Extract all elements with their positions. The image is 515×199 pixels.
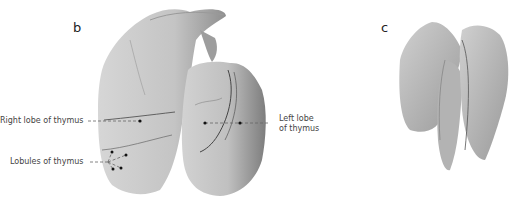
panel-c-lobes (399, 22, 508, 170)
label-left-lobe-line2: of thymus (279, 124, 319, 134)
label-left-lobe-line1: Left lobe (279, 114, 314, 124)
anatomy-illustration (0, 0, 515, 199)
label-lobules: Lobules of thymus (10, 157, 83, 167)
label-right-lobe: Right lobe of thymus (0, 116, 84, 126)
left-lobe-shape (182, 30, 266, 196)
